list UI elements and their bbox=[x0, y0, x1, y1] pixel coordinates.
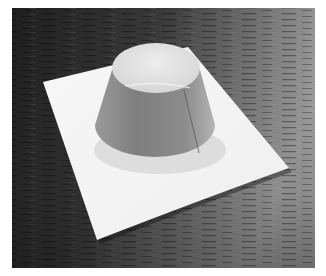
photo-canvas bbox=[12, 8, 315, 268]
photo bbox=[12, 8, 315, 268]
